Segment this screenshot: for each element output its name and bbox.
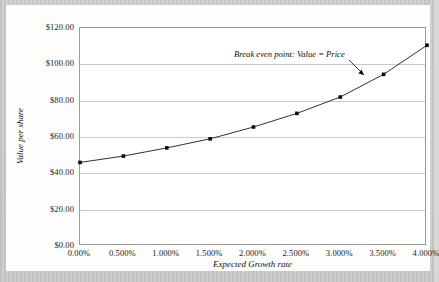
x-axis-tick-label: 1.500% (196, 248, 223, 258)
x-axis-tick-label: 3.500% (369, 248, 396, 258)
x-axis-tick-label: 2.500% (282, 248, 309, 258)
x-axis-tick-label: 0.00% (68, 248, 90, 258)
annotation-arrow (6, 5, 430, 271)
x-axis-tick-label: 0.500% (109, 248, 136, 258)
x-axis-tick-label: 3.000% (326, 248, 353, 258)
chart-figure: Value per share $120.00$100.00$80.00$60.… (6, 5, 430, 271)
x-axis-tick-label: 2.000% (239, 248, 266, 258)
x-axis-tick-label: 1.000% (152, 248, 179, 258)
x-axis-tick-label: 4.000% (413, 248, 439, 258)
x-axis-title: Expected Growth rate (79, 259, 426, 269)
